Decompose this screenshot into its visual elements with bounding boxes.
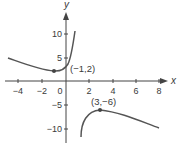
- x-tick-label: −4: [13, 86, 23, 96]
- x-tick-label: −2: [37, 86, 47, 96]
- y-tick-label: −10: [47, 124, 62, 134]
- x-axis-arrow-icon: [160, 78, 168, 84]
- y-axis-arrow-icon: [63, 12, 69, 20]
- y-tick-label: 5: [57, 53, 62, 63]
- local-min-label: (−1,2): [70, 63, 95, 74]
- local-min-point: [52, 69, 56, 73]
- x-axis-label: x: [170, 75, 177, 86]
- y-tick-label: 10: [52, 29, 62, 39]
- left-branch-curve: [8, 31, 75, 71]
- y-axis-label: y: [63, 0, 70, 10]
- right-branch-curve: [81, 110, 159, 137]
- function-graph: x −4 −2 0 2 4 6 8 y 10 5 −5 −10 (−1,2) (…: [0, 0, 179, 146]
- local-max-point: [98, 108, 102, 112]
- x-tick-label: 0: [57, 86, 62, 96]
- x-tick-label: 4: [110, 86, 115, 96]
- y-tick-label: −5: [52, 100, 62, 110]
- local-max-label: (3,−6): [91, 96, 116, 107]
- x-axis: x −4 −2 0 2 4 6 8: [5, 75, 177, 96]
- x-tick-label: 2: [86, 86, 91, 96]
- x-tick-label: 8: [156, 86, 161, 96]
- x-tick-label: 6: [133, 86, 138, 96]
